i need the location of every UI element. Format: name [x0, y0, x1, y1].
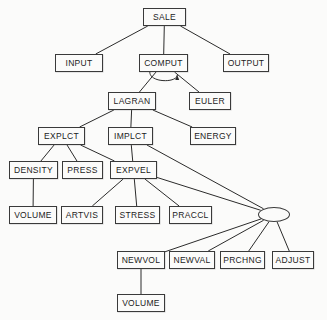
edge-comput-to-euler	[175, 72, 199, 92]
node-label: EXPVEL	[116, 165, 151, 175]
node-sale[interactable]: SALE	[143, 8, 186, 26]
node-label: VOLUME	[14, 210, 52, 220]
node-stress[interactable]: STRESS	[115, 206, 160, 224]
node-label: ADJUST	[276, 255, 311, 265]
node-implct[interactable]: IMPLCT	[108, 127, 153, 145]
node-label: IMPLCT	[114, 131, 147, 141]
edge-junction-to-prchng	[249, 222, 269, 251]
edge-lagran-to-explct	[80, 110, 114, 127]
node-euler[interactable]: EULER	[189, 92, 231, 110]
edge-sale-to-input	[96, 26, 148, 54]
node-prchng[interactable]: PRCHNG	[220, 251, 265, 269]
edge-implct-to-junction	[147, 145, 264, 209]
node-label: PRACCL	[172, 210, 208, 220]
node-artvis[interactable]: ARTVIS	[61, 206, 103, 224]
edge-junction-to-adjust	[277, 222, 289, 251]
node-volume1[interactable]: VOLUME	[9, 206, 57, 224]
edge-sale-to-output	[180, 26, 230, 54]
edge-expvel-to-artvis	[92, 179, 123, 206]
node-label: NEWVAL	[173, 255, 210, 265]
node-label: COMPUT	[144, 58, 183, 68]
node-adjust[interactable]: ADJUST	[272, 251, 314, 269]
junction-node-junction[interactable]	[258, 207, 290, 222]
node-explct[interactable]: EXPLCT	[38, 127, 85, 145]
node-label: ARTVIS	[66, 210, 98, 220]
node-newval[interactable]: NEWVAL	[169, 251, 215, 269]
call-hierarchy-diagram: SALEINPUTCOMPUTOUTPUTLAGRANEULEREXPLCTIM…	[0, 0, 327, 320]
node-label: LAGRAN	[114, 96, 151, 106]
edge-explct-to-press	[67, 145, 77, 161]
node-label: EULER	[195, 96, 225, 106]
node-comput[interactable]: COMPUT	[139, 54, 188, 72]
node-label: SALE	[153, 12, 176, 22]
node-praccl[interactable]: PRACCL	[169, 206, 212, 224]
edge-explct-to-density	[41, 145, 54, 161]
node-label: EXPLCT	[44, 131, 79, 141]
node-energy[interactable]: ENERGY	[190, 127, 236, 145]
edge-layer	[0, 0, 327, 320]
node-label: PRESS	[67, 165, 97, 175]
edge-sale-to-comput	[164, 26, 165, 54]
node-expvel[interactable]: EXPVEL	[110, 161, 157, 179]
node-label: DENSITY	[14, 165, 53, 175]
node-output[interactable]: OUTPUT	[223, 54, 269, 72]
node-density[interactable]: DENSITY	[9, 161, 58, 179]
node-press[interactable]: PRESS	[62, 161, 103, 179]
edge-lagran-to-energy	[153, 110, 192, 127]
edge-comput-to-lagran	[139, 72, 156, 92]
edge-lagran-to-implct	[131, 110, 132, 127]
node-label: VOLUME	[122, 298, 160, 308]
node-label: NEWVOL	[122, 255, 161, 265]
edge-expvel-to-stress	[134, 179, 136, 206]
node-label: INPUT	[66, 58, 93, 68]
edge-implct-to-expvel	[131, 145, 132, 161]
edge-junction-to-newval	[208, 220, 263, 251]
edge-comput-self-loop	[150, 72, 177, 81]
node-label: ENERGY	[194, 131, 232, 141]
node-label: STRESS	[120, 210, 156, 220]
node-lagran[interactable]: LAGRAN	[108, 92, 156, 110]
node-label: OUTPUT	[228, 58, 265, 68]
edge-explct-to-expvel	[81, 145, 115, 161]
node-volume2[interactable]: VOLUME	[117, 294, 165, 312]
node-input[interactable]: INPUT	[55, 54, 103, 72]
node-label: PRCHNG	[223, 255, 262, 265]
node-newvol[interactable]: NEWVOL	[117, 251, 165, 269]
